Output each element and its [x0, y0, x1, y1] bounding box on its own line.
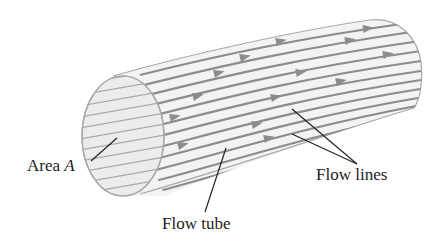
flow-tube-label: Flow tube: [162, 214, 230, 233]
area-label-text: Area: [27, 156, 64, 175]
flow-lines-leader-lower: [292, 134, 357, 164]
flow-lines-label: Flow lines: [316, 165, 387, 184]
area-variable: A: [63, 156, 75, 175]
area-label: Area A: [27, 156, 75, 175]
flow-tube-diagram: Area A Flow tube Flow lines: [0, 0, 433, 249]
